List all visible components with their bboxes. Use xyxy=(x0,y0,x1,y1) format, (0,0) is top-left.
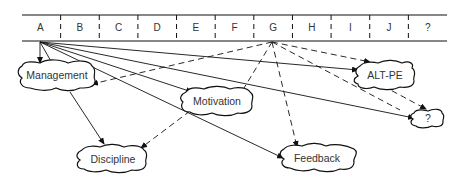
edge-g-feedback xyxy=(272,42,297,147)
strip-cell-b: B xyxy=(77,22,84,33)
edge-management-discipline xyxy=(70,92,104,144)
strip-cell-unknown: ? xyxy=(425,22,431,33)
strip-cell-g: G xyxy=(269,22,277,33)
strip-cell-e: E xyxy=(193,22,200,33)
strip-cell-h: H xyxy=(308,22,315,33)
node-altpe-label: ALT-PE xyxy=(367,69,402,81)
strip-cell-d: D xyxy=(154,22,161,33)
strip-cell-f: F xyxy=(231,22,237,33)
edge-motivation-discipline xyxy=(141,111,190,148)
node-management-label: Management xyxy=(26,69,87,81)
edge-g-motivation xyxy=(244,42,272,88)
strip-cell-i: I xyxy=(349,22,352,33)
node-motivation-label: Motivation xyxy=(193,95,241,107)
node-discipline-label: Discipline xyxy=(91,153,136,165)
node-feedback: Feedback xyxy=(280,143,356,171)
strip-cell-c: C xyxy=(115,22,122,33)
node-discipline: Discipline xyxy=(77,144,147,172)
edge-g-altpe xyxy=(272,42,370,62)
node-feedback-label: Feedback xyxy=(294,152,341,164)
node-motivation: Motivation xyxy=(181,86,253,115)
strip-cell-a: A xyxy=(37,22,44,33)
edge-g-management xyxy=(92,42,272,84)
node-unknown-label: ? xyxy=(425,112,431,124)
concept-diagram: ABCDEFGHIJ? Management Motivation Discip… xyxy=(0,0,460,184)
node-management: Management xyxy=(18,60,95,91)
node-unknown: ? xyxy=(411,109,444,128)
node-altpe: ALT-PE xyxy=(354,60,415,89)
strip-cell-j: J xyxy=(387,22,392,33)
category-strip: ABCDEFGHIJ? xyxy=(22,15,447,41)
